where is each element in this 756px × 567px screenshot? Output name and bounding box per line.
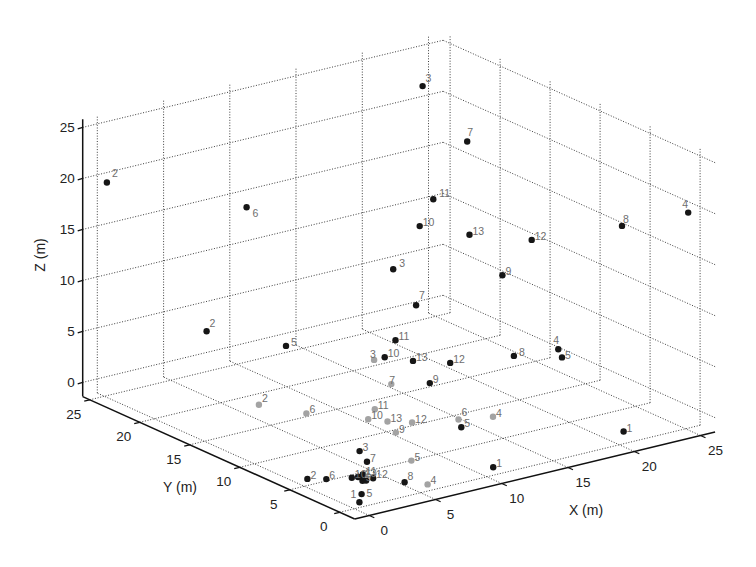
data-point-dark: [511, 353, 517, 359]
z-axis-title: Z (m): [32, 238, 48, 271]
x-tick-label: 0: [381, 523, 389, 538]
point-label: 6: [462, 406, 468, 418]
point-label: 4: [431, 474, 437, 486]
point-label: 5: [565, 349, 571, 361]
point-label: 10: [423, 216, 435, 228]
point-label: 9: [505, 265, 511, 277]
point-label: 6: [309, 403, 315, 415]
data-point-dark: [243, 204, 249, 210]
y-tick-label: 5: [270, 497, 278, 512]
point-label: 5: [414, 451, 420, 463]
point-label: 5: [291, 336, 297, 348]
point-label: 6: [253, 207, 259, 219]
y-tick-label: 25: [66, 407, 81, 422]
point-label: 9: [433, 373, 439, 385]
point-label: 8: [519, 346, 525, 358]
data-point-dark: [358, 491, 364, 497]
data-point-dark: [356, 499, 362, 505]
point-label: 7: [419, 289, 425, 301]
y-tick-label: 15: [166, 452, 181, 467]
point-label: 7: [370, 452, 376, 464]
x-tick-label: 25: [708, 443, 723, 458]
point-label: 9: [399, 423, 405, 435]
point-label: 10: [388, 347, 400, 359]
data-point-dark: [685, 209, 691, 215]
y-tick-label: 20: [116, 429, 131, 444]
point-label: 12: [376, 468, 388, 480]
point-label: 2: [262, 392, 268, 404]
z-tick-label: 10: [60, 273, 75, 288]
point-label: 3: [426, 72, 432, 84]
z-tick-label: 15: [60, 222, 75, 237]
point-label: 13: [473, 225, 485, 237]
y-tick-label: 10: [216, 474, 231, 489]
y-axis-title: Y (m): [163, 479, 197, 495]
point-label: 12: [415, 413, 427, 425]
point-label: 3: [370, 348, 376, 360]
point-label: 11: [399, 330, 410, 342]
z-tick-label: 0: [67, 375, 75, 390]
point-label: 4: [553, 334, 559, 346]
data-point-dark: [430, 196, 436, 202]
point-label: 4: [682, 198, 688, 210]
x-tick-label: 15: [575, 475, 590, 490]
data-point-dark: [390, 266, 396, 272]
point-label: 9: [366, 471, 372, 483]
point-label: 4: [496, 407, 502, 419]
point-label: 1: [496, 457, 502, 469]
point-label: 2: [210, 317, 216, 329]
point-label: 10: [371, 409, 383, 421]
plot-background: [0, 0, 756, 567]
z-tick-label: 25: [60, 120, 75, 135]
point-label: 1: [627, 422, 633, 434]
x-axis-title: X (m): [569, 502, 603, 518]
point-label: 8: [623, 213, 629, 225]
data-point-dark: [464, 138, 470, 144]
point-label: 2: [310, 469, 316, 481]
z-tick-label: 20: [60, 171, 75, 186]
data-point-dark: [413, 302, 419, 308]
data-point-dark: [555, 346, 561, 352]
point-label: 5: [464, 417, 470, 429]
point-label: 8: [408, 470, 414, 482]
data-point-dark: [104, 179, 110, 185]
x-tick-label: 10: [509, 491, 524, 506]
point-label: 13: [416, 351, 428, 363]
point-label: 5: [367, 487, 373, 499]
point-label: 3: [363, 441, 369, 453]
point-label: 12: [453, 353, 465, 365]
z-tick-label: 5: [67, 324, 75, 339]
point-label: 1: [350, 488, 356, 500]
point-label: 6: [329, 469, 335, 481]
x-tick-label: 20: [642, 459, 657, 474]
point-label: 7: [389, 374, 395, 386]
scatter-3d-plot: 051015202505101520250510152025 372611101…: [0, 0, 756, 567]
data-point-dark: [283, 343, 289, 349]
y-tick-label: 0: [320, 519, 328, 534]
point-label: 12: [535, 230, 547, 242]
x-tick-label: 5: [447, 507, 455, 522]
point-label: 11: [439, 187, 450, 199]
point-label: 7: [467, 126, 473, 138]
point-label: 2: [112, 167, 118, 179]
point-label: 3: [399, 257, 405, 269]
